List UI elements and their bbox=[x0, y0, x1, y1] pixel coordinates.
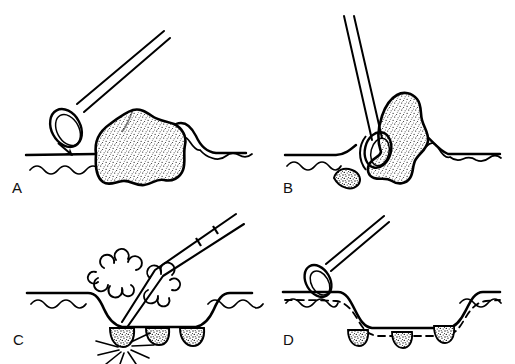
panel-c-nodule-1 bbox=[110, 328, 134, 347]
panel-d-catheter-lower bbox=[331, 222, 389, 271]
panel-d-nodule-2 bbox=[392, 332, 412, 348]
panel-d-nodule-1 bbox=[348, 330, 368, 346]
panel-c-nodule-3 bbox=[180, 328, 204, 346]
panel-d-catheter-upper bbox=[326, 216, 384, 264]
panel-label-a: A bbox=[12, 179, 23, 196]
panel-a bbox=[26, 31, 252, 185]
panel-b-polyp bbox=[368, 93, 428, 183]
panel-c-nodule-2 bbox=[146, 328, 169, 345]
panel-b-base-nodule bbox=[334, 169, 360, 188]
panel-a-snare-loop-inner bbox=[51, 110, 86, 149]
figure-root: A B C D bbox=[0, 0, 515, 364]
panel-a-mucosa-line bbox=[26, 154, 96, 155]
panel-a-catheter-lower bbox=[84, 38, 170, 112]
panel-b bbox=[285, 16, 501, 188]
panel-a-catheter-upper bbox=[77, 31, 164, 104]
panel-label-c: C bbox=[13, 331, 24, 348]
panel-label-d: D bbox=[283, 331, 294, 348]
panel-c-smoke-plume-left bbox=[88, 249, 142, 297]
panel-b-mucosa-line bbox=[285, 145, 356, 155]
polypectomy-illustration bbox=[0, 0, 515, 364]
panel-d-nodule-3 bbox=[434, 326, 454, 343]
panel-label-b: B bbox=[283, 179, 294, 196]
panel-c-smoke-plume-right bbox=[144, 263, 180, 307]
panel-d-mucosa-line bbox=[283, 292, 500, 328]
panel-c-muscularis-left bbox=[31, 300, 86, 308]
panel-b-muscularis-left bbox=[287, 162, 341, 170]
panel-a-polyp bbox=[96, 109, 186, 185]
panel-a-snare-loop bbox=[44, 104, 88, 153]
panel-a-muscularis-line-right bbox=[178, 137, 252, 159]
panel-d bbox=[283, 216, 501, 348]
panel-c bbox=[27, 214, 263, 364]
panel-c-catheter-lower bbox=[128, 224, 244, 326]
panel-d-snare-loop bbox=[299, 260, 337, 301]
panel-a-muscularis-line bbox=[30, 166, 100, 174]
